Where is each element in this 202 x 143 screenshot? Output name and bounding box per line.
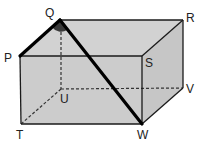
cuboid-diagram: Q R P S U V T W: [0, 0, 202, 143]
label-U: U: [60, 92, 69, 106]
label-S: S: [145, 56, 153, 70]
face-front: [20, 56, 142, 124]
label-P: P: [4, 51, 12, 65]
label-T: T: [16, 128, 24, 142]
label-R: R: [186, 11, 195, 25]
label-W: W: [137, 128, 149, 142]
label-V: V: [186, 82, 194, 96]
label-Q: Q: [45, 6, 54, 20]
